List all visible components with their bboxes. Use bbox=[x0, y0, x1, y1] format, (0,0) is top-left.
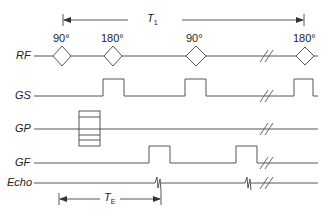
te-label: TE bbox=[104, 191, 115, 205]
row-label-gf: GF bbox=[15, 156, 30, 168]
gs-waveform bbox=[34, 79, 318, 102]
rf-angle-label: 90° bbox=[186, 32, 203, 44]
row-label-gp: GP bbox=[15, 122, 31, 134]
echo-signal-icon bbox=[245, 177, 251, 190]
rf-pulse-180-icon bbox=[104, 46, 122, 66]
rf-pulse-90-icon bbox=[53, 46, 71, 66]
rf-pulse-90-icon bbox=[186, 46, 206, 66]
pulse-sequence-diagram bbox=[0, 0, 332, 212]
t1-interval-arrow bbox=[63, 14, 304, 26]
rf-angle-label: 90° bbox=[53, 32, 70, 44]
rf-angle-label: 180° bbox=[293, 32, 316, 44]
row-label-echo: Echo bbox=[7, 176, 32, 188]
gp-waveform bbox=[34, 111, 318, 146]
row-label-rf: RF bbox=[16, 49, 31, 61]
row-label-gs: GS bbox=[15, 89, 31, 101]
gf-waveform bbox=[34, 146, 318, 169]
echo-signal-icon bbox=[155, 177, 161, 190]
echo-waveform bbox=[34, 177, 318, 190]
rf-waveform bbox=[34, 46, 318, 66]
rf-pulse-180-icon bbox=[296, 47, 314, 65]
t1-label: T1 bbox=[147, 12, 158, 26]
rf-angle-label: 180° bbox=[101, 32, 124, 44]
